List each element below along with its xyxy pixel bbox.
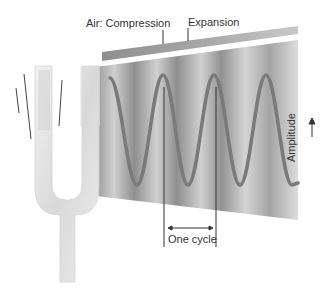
sound-wave-diagram xyxy=(0,0,332,297)
tuning-fork xyxy=(35,66,99,282)
expansion-label: Expansion xyxy=(188,17,239,28)
air-pressure-panel xyxy=(96,40,298,220)
amplitude-label: Amplitude xyxy=(286,113,297,162)
amplitude-arrow xyxy=(309,118,315,137)
cycle-arrow xyxy=(168,226,213,230)
compression-label: Air: Compression xyxy=(86,18,170,29)
one-cycle-label: One cycle xyxy=(168,234,217,245)
